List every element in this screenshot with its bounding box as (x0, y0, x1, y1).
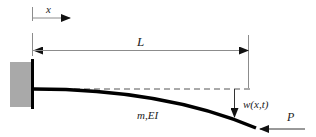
load-label: P (286, 110, 295, 124)
beam-properties-label: m,EI (137, 109, 159, 121)
cantilever-diagram: x L m,EI w(x,t) P (0, 0, 316, 137)
x-axis-label: x (45, 3, 51, 15)
length-label: L (136, 34, 144, 49)
deflection-label: w(x,t) (243, 98, 269, 111)
x-axis-arrow (33, 7, 71, 21)
wall-support (10, 59, 34, 109)
